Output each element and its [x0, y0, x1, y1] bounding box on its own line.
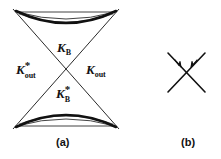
- label-k-b-star-base: K: [56, 86, 65, 101]
- caption-panel-b: (b): [181, 136, 195, 148]
- label-k-b-star-superscript: *: [65, 84, 71, 95]
- label-k-b-star: K*B: [56, 85, 66, 101]
- label-k-out-star-base: K: [16, 62, 25, 77]
- label-k-out-star: K*out: [16, 61, 26, 77]
- lower-hyperbola-branch: [16, 115, 116, 127]
- label-k-b-base: K: [57, 40, 66, 55]
- figure-container: KB K*out Kout K*B (a) (b): [0, 0, 221, 159]
- label-k-out: Kout: [86, 61, 106, 77]
- label-k-out-star-affixes: *out: [25, 73, 26, 74]
- label-k-out-base: K: [86, 62, 95, 77]
- upper-branch-thin-curve-lower: [19, 14, 113, 22]
- label-k-b-subscript: B: [66, 48, 71, 57]
- upper-hyperbola-branch: [16, 11, 116, 23]
- label-k-b: KB: [57, 39, 71, 55]
- caption-panel-a: (a): [56, 136, 69, 148]
- lower-branch-bold-curve: [16, 115, 116, 127]
- upper-branch-bold-curve: [16, 11, 116, 23]
- label-k-b-star-subscript: B: [65, 96, 70, 104]
- lower-branch-thin-curve-upper: [19, 116, 113, 124]
- label-k-out-subscript: out: [95, 70, 106, 79]
- arrowhead-upper-left: [175, 60, 181, 67]
- label-k-b-star-affixes: *B: [65, 97, 66, 98]
- label-k-out-star-subscript: out: [25, 72, 36, 80]
- label-k-out-star-superscript: *: [25, 60, 31, 71]
- panel-b-group: [168, 53, 205, 92]
